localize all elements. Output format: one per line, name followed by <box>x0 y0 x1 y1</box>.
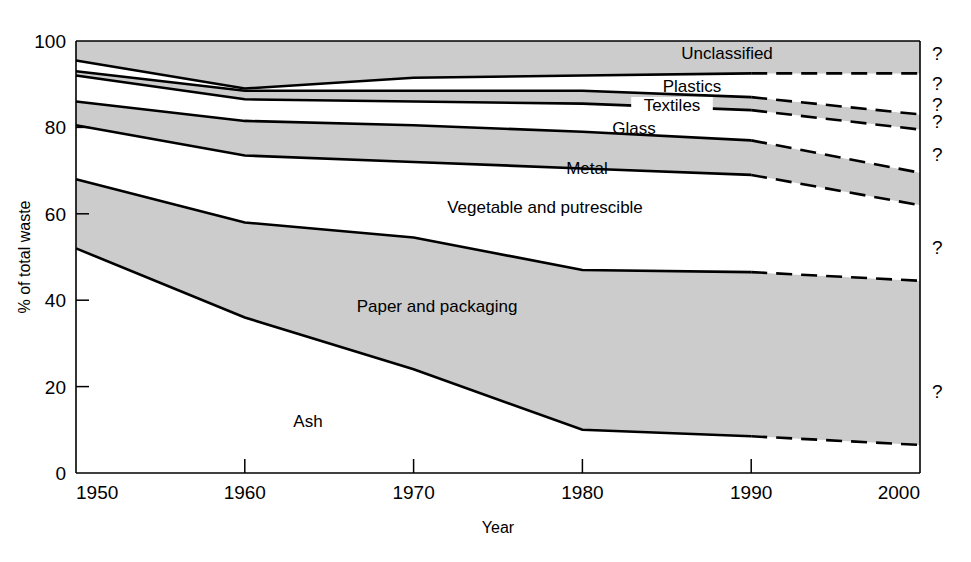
uncertainty-markers: ??????? <box>932 43 943 402</box>
series-label-paper-and-packaging: Paper and packaging <box>357 297 518 316</box>
uncertainty-marker-5: ? <box>932 144 943 165</box>
x-tick-label-1950: 1950 <box>76 482 118 503</box>
x-tick-label-1970: 1970 <box>392 482 434 503</box>
stacked-band-fills <box>76 41 920 473</box>
series-label-vegetable-and-putrescible: Vegetable and putrescible <box>447 198 643 217</box>
x-tick-label-1980: 1980 <box>561 482 603 503</box>
uncertainty-marker-4: ? <box>932 111 943 132</box>
uncertainty-marker-7: ? <box>932 381 943 402</box>
x-tick-label-1960: 1960 <box>224 482 266 503</box>
x-tick-label-1990: 1990 <box>730 482 772 503</box>
y-tick-label-0: 0 <box>55 463 66 484</box>
y-axis-title: % of total waste <box>16 200 33 313</box>
y-tick-label-20: 20 <box>45 377 66 398</box>
series-label-glass: Glass <box>612 119 655 138</box>
y-axis-tick-labels: 020406080100 <box>34 31 66 484</box>
x-tick-label-2000: 2000 <box>878 482 920 503</box>
series-label-plastics: Plastics <box>663 77 722 96</box>
uncertainty-marker-2: ? <box>932 73 943 94</box>
series-label-ash: Ash <box>293 412 322 431</box>
y-tick-label-100: 100 <box>34 31 66 52</box>
chart-canvas: 020406080100 195019601970198019902000 As… <box>0 0 971 562</box>
uncertainty-marker-1: ? <box>932 43 943 64</box>
series-label-unclassified: Unclassified <box>681 44 773 63</box>
waste-composition-chart: 020406080100 195019601970198019902000 As… <box>0 0 971 562</box>
y-tick-label-40: 40 <box>45 290 66 311</box>
uncertainty-marker-6: ? <box>932 237 943 258</box>
y-tick-label-80: 80 <box>45 117 66 138</box>
series-label-metal: Metal <box>566 159 608 178</box>
x-axis-title: Year <box>482 519 515 536</box>
x-axis-tick-labels: 195019601970198019902000 <box>76 482 920 503</box>
y-tick-label-60: 60 <box>45 204 66 225</box>
series-label-textiles: Textiles <box>644 96 701 115</box>
